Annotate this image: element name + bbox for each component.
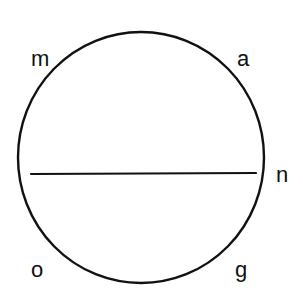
label-n: n <box>276 162 288 187</box>
label-g: g <box>235 257 247 282</box>
circle-diagram: m a n o g <box>0 0 303 303</box>
label-m: m <box>31 46 49 71</box>
label-a: a <box>237 46 250 71</box>
label-o: o <box>31 257 43 282</box>
chord-line <box>31 173 256 174</box>
